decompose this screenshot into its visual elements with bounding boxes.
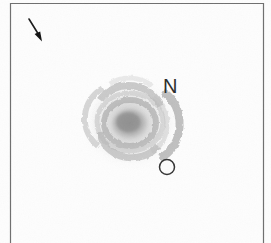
- label-east-west: O: [161, 158, 175, 176]
- paper-grain-overlay: [0, 0, 271, 243]
- figure-canvas: N: [0, 0, 271, 243]
- figure-panel: N O: [0, 0, 271, 243]
